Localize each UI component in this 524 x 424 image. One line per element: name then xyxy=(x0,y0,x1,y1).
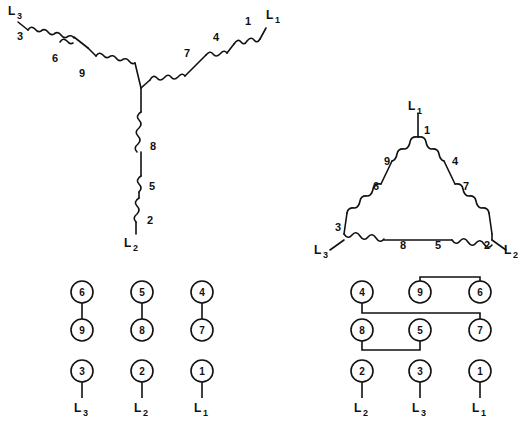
wye-l2-letter: L xyxy=(124,236,131,250)
wye-label-9: 9 xyxy=(79,67,85,79)
delta-terminal-5-label: 5 xyxy=(417,325,423,336)
delta-board-l1-letter: L xyxy=(472,401,479,415)
wye-board-l2-subscript: 2 xyxy=(143,408,148,418)
wye-terminal-board: 6 5 4 9 8 7 3 2 xyxy=(71,281,213,418)
wye-label-7: 7 xyxy=(184,47,190,59)
delta-terminal-1-label: 1 xyxy=(477,366,483,377)
delta-terminal-7[interactable]: 7 xyxy=(469,319,491,341)
wye-seg-center-7 xyxy=(141,80,150,88)
wye-terminal-7-label: 7 xyxy=(199,325,205,336)
delta-seg-7-corner xyxy=(489,213,492,234)
delta-terminal-4-label: 4 xyxy=(359,287,365,298)
delta-label-6: 6 xyxy=(373,180,379,192)
wye-seg-4-1 xyxy=(227,44,234,53)
wye-label-8: 8 xyxy=(150,140,156,152)
wye-coil-9 xyxy=(96,53,135,63)
wye-l3-lead xyxy=(18,22,28,30)
delta-board-l1-subscript: 1 xyxy=(481,408,486,418)
wye-l1-letter: L xyxy=(266,8,273,22)
delta-terminal-6[interactable]: 6 xyxy=(469,281,491,303)
wye-coil-3 xyxy=(28,27,74,38)
wye-terminal-8[interactable]: 8 xyxy=(131,319,153,341)
delta-terminal-5[interactable]: 5 xyxy=(409,319,431,341)
delta-terminal-7-label: 7 xyxy=(477,325,483,336)
wye-terminal-4[interactable]: 4 xyxy=(191,281,213,303)
delta-l2-letter: L xyxy=(504,243,511,257)
wye-arm-l1 xyxy=(141,28,266,88)
wye-coil-4 xyxy=(206,51,227,56)
wye-label-5: 5 xyxy=(149,180,155,192)
delta-board-line-label-l3: L 3 xyxy=(412,401,426,418)
wye-l3-letter: L xyxy=(8,4,15,18)
delta-l2-subscript: 2 xyxy=(513,250,518,260)
delta-terminal-8-label: 8 xyxy=(359,325,365,336)
wye-coil-5 xyxy=(137,176,141,192)
delta-coil-1-left xyxy=(392,137,418,161)
delta-seg-6-corner xyxy=(344,213,347,234)
delta-terminal-1[interactable]: 1 xyxy=(469,360,491,382)
delta-l3-subscript: 3 xyxy=(323,250,328,260)
delta-terminal-2[interactable]: 2 xyxy=(351,360,373,382)
delta-terminal-3-label: 3 xyxy=(417,366,423,377)
wye-terminal-6[interactable]: 6 xyxy=(71,281,93,303)
wye-board-l2-letter: L xyxy=(134,401,141,415)
delta-terminal-4[interactable]: 4 xyxy=(351,281,373,303)
wye-board-l3-letter: L xyxy=(74,401,81,415)
wye-label-4: 4 xyxy=(213,31,220,43)
delta-winding-schematic: 1 9 6 4 7 3 8 5 2 L 1 L 3 L 2 xyxy=(314,99,518,260)
wye-line-label-l2: L 2 xyxy=(124,236,138,253)
wye-seg-3-6 xyxy=(74,37,88,48)
wye-terminal-5[interactable]: 5 xyxy=(131,281,153,303)
wye-l1-subscript: 1 xyxy=(275,15,280,25)
wye-terminal-9[interactable]: 9 xyxy=(71,319,93,341)
wye-terminal-7[interactable]: 7 xyxy=(191,319,213,341)
delta-terminal-board: 4 9 6 8 5 7 2 3 xyxy=(351,277,491,418)
wye-terminal-5-label: 5 xyxy=(139,287,145,298)
delta-terminal-2-label: 2 xyxy=(359,366,365,377)
delta-line-label-l3: L 3 xyxy=(314,243,328,260)
delta-left-leg xyxy=(344,137,418,234)
wye-seg-6-9 xyxy=(88,48,96,56)
wye-terminal-1[interactable]: 1 xyxy=(191,360,213,382)
wye-label-1: 1 xyxy=(245,15,251,27)
delta-line-label-l1: L 1 xyxy=(408,99,422,116)
wye-board-l3-subscript: 3 xyxy=(83,408,88,418)
wye-terminal-3-label: 3 xyxy=(79,366,85,377)
delta-l3-letter: L xyxy=(314,243,321,257)
delta-board-l2-subscript: 2 xyxy=(363,408,368,418)
wye-board-line-label-l1: L 1 xyxy=(194,401,208,418)
delta-board-l3-subscript: 3 xyxy=(421,408,426,418)
wye-terminal-8-label: 8 xyxy=(139,325,145,336)
delta-board-l3-letter: L xyxy=(412,401,419,415)
wye-coil-2 xyxy=(134,198,139,222)
wye-l3-subscript: 3 xyxy=(17,11,22,21)
delta-label-3: 3 xyxy=(335,221,341,233)
delta-label-8: 8 xyxy=(400,239,406,251)
wye-seg-9-center xyxy=(135,63,141,88)
wye-l1-lead xyxy=(260,28,266,39)
wye-board-l1-subscript: 1 xyxy=(203,408,208,418)
wye-coil-8 xyxy=(135,112,141,152)
wye-board-line-label-l3: L 3 xyxy=(74,401,88,418)
wye-board-line-label-l2: L 2 xyxy=(134,401,148,418)
delta-terminal-3[interactable]: 3 xyxy=(409,360,431,382)
wye-arm-l2 xyxy=(134,88,141,234)
delta-terminal-8[interactable]: 8 xyxy=(351,319,373,341)
wye-label-3: 3 xyxy=(17,30,23,42)
delta-line-label-l2: L 2 xyxy=(504,243,518,260)
delta-label-2: 2 xyxy=(484,239,490,251)
wye-terminal-2[interactable]: 2 xyxy=(131,360,153,382)
delta-terminal-9[interactable]: 9 xyxy=(409,281,431,303)
wye-terminal-3[interactable]: 3 xyxy=(71,360,93,382)
delta-label-4: 4 xyxy=(452,155,459,167)
wye-star-winding-schematic: 3 6 9 1 4 7 8 5 2 L 3 L 1 L 2 xyxy=(8,4,280,253)
delta-board-l2-letter: L xyxy=(354,401,361,415)
delta-l1-letter: L xyxy=(408,99,415,113)
wye-terminal-9-label: 9 xyxy=(79,325,85,336)
delta-label-7: 7 xyxy=(463,180,469,192)
wye-label-2: 2 xyxy=(147,214,153,226)
wye-l2-subscript: 2 xyxy=(133,243,138,253)
wye-line-label-l3: L 3 xyxy=(8,4,22,21)
delta-terminal-6-label: 6 xyxy=(477,287,483,298)
wye-terminal-6-label: 6 xyxy=(79,287,85,298)
